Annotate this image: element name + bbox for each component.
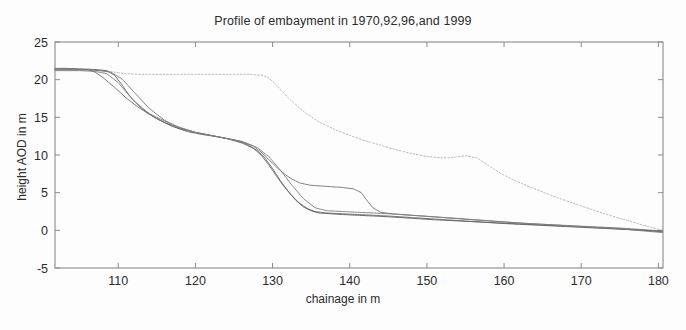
x-tick-label: 130 <box>262 274 283 288</box>
y-tick-label: -5 <box>37 262 48 276</box>
x-tick-label: 120 <box>185 274 206 288</box>
y-axis-label: height AOD in m <box>15 77 29 237</box>
series-line-1999 <box>55 70 662 231</box>
y-tick-label: 15 <box>34 111 48 125</box>
y-tick-label: 5 <box>41 186 48 200</box>
x-tick-label: 160 <box>494 274 515 288</box>
y-tick-label: 0 <box>41 224 48 238</box>
series-line-1992 <box>55 68 662 231</box>
chart-plot-area: 110120130140150160170180-50510152025 <box>0 0 686 330</box>
x-tick-label: 180 <box>648 274 669 288</box>
series-line-1996 <box>55 69 662 232</box>
x-tick-label: 170 <box>571 274 592 288</box>
x-tick-label: 140 <box>339 274 360 288</box>
series-line-1970 <box>55 69 662 230</box>
y-tick-label: 25 <box>34 36 48 50</box>
y-tick-label: 20 <box>34 73 48 87</box>
x-tick-label: 110 <box>108 274 128 288</box>
figure-canvas: Profile of embayment in 1970,92,96,and 1… <box>0 0 686 330</box>
series-line-1999b <box>55 71 662 233</box>
x-tick-label: 150 <box>416 274 437 288</box>
plot-frame <box>55 42 663 268</box>
x-axis-label: chainage in m <box>0 292 686 306</box>
y-tick-label: 10 <box>34 149 48 163</box>
